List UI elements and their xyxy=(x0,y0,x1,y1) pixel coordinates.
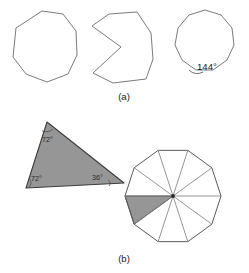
angle-label-144: 144° xyxy=(197,61,217,72)
figure-canvas: 144° (a) 72° 72° 36° (b) xyxy=(0,0,249,273)
decagon-center-dot xyxy=(171,194,175,198)
panel-b: 72° 72° 36° (b) xyxy=(26,122,221,264)
decagon-spoke xyxy=(173,150,188,196)
angle-label-base-right-36: 36° xyxy=(92,173,103,182)
angle-label-base-left-72: 72° xyxy=(31,174,42,183)
angle-label-apex-72: 72° xyxy=(42,135,53,144)
decagon-spoke xyxy=(173,168,212,196)
decagon-spoke xyxy=(173,196,188,242)
convex-nonagon xyxy=(13,11,77,82)
part-label-a: (a) xyxy=(118,91,130,102)
decagon-spoke xyxy=(134,168,173,196)
part-label-b: (b) xyxy=(118,253,130,264)
panel-a: 144° (a) xyxy=(13,10,234,102)
concave-notched-polygon xyxy=(92,12,153,83)
decagon-spoke xyxy=(158,150,173,196)
decagon-spoke xyxy=(173,196,212,224)
geometry-figure: 144° (a) 72° 72° 36° (b) xyxy=(0,0,249,273)
decagon-shaded-wedge xyxy=(125,196,173,224)
decagon-dissected-into-ten-triangles xyxy=(125,150,221,241)
